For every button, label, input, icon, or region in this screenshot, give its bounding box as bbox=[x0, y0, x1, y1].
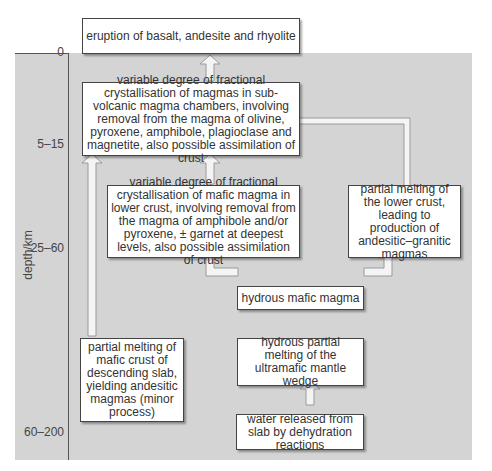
box-water-released: water released from slab by dehydration … bbox=[236, 414, 364, 450]
box-fractional-subvolcanic: variable degree of fractional crystallis… bbox=[82, 82, 300, 156]
box-hydrous-partial-melting: hydrous partial melting of the ultramafi… bbox=[237, 338, 364, 386]
box-hydrous-mafic-magma: hydrous mafic magma bbox=[237, 286, 364, 310]
box-eruption: eruption of basalt, andesite and rhyolit… bbox=[82, 18, 300, 54]
box-partial-melting-lower-crust: partial melting of the lower crust, lead… bbox=[348, 185, 461, 258]
box-partial-melting-slab: partial melting of mafic crust of descen… bbox=[80, 338, 184, 422]
box-fractional-lower-crust: variable degree of fractional crystallis… bbox=[107, 185, 300, 258]
